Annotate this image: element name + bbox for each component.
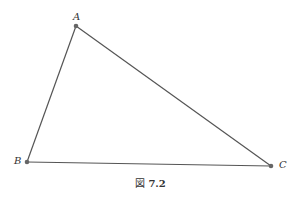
label-a: A — [73, 11, 80, 22]
edge-ab — [27, 26, 76, 162]
label-b: B — [14, 155, 21, 166]
point-a — [74, 24, 79, 29]
point-c — [269, 164, 274, 169]
point-b — [25, 160, 30, 165]
edge-bc — [27, 162, 271, 166]
figure-caption: 図 7.2 — [0, 175, 301, 190]
edge-ac — [76, 26, 271, 166]
caption-number: 7.2 — [148, 178, 165, 189]
caption-prefix: 図 — [135, 178, 145, 189]
label-c: C — [279, 159, 287, 170]
triangle-edges — [27, 26, 271, 166]
